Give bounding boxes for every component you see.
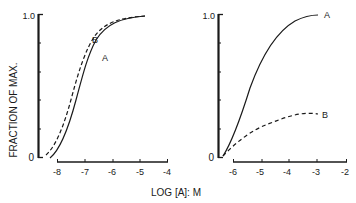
svg-text:-6: -6	[229, 167, 237, 177]
right-panel: 1.0 0 -6 -5 -4 -3 -2 A B	[202, 10, 349, 177]
right-curve-a	[223, 15, 318, 156]
svg-text:-3: -3	[312, 167, 320, 177]
right-curve-b	[223, 113, 318, 156]
left-curve-b-label: B	[92, 35, 98, 45]
x-axis-label: LOG [A]: M	[151, 187, 201, 198]
svg-text:-4: -4	[163, 167, 171, 177]
svg-text:-5: -5	[256, 167, 264, 177]
svg-text:-6: -6	[108, 167, 116, 177]
right-y-top-label: 1.0	[202, 11, 215, 21]
left-y-top-label: 1.0	[22, 11, 35, 21]
y-axis-label: FRACTION OF MAX.	[8, 63, 19, 158]
svg-text:-8: -8	[53, 167, 61, 177]
right-curve-b-label: B	[322, 110, 328, 120]
svg-text:-2: -2	[341, 167, 349, 177]
right-curve-a-label: A	[324, 10, 330, 20]
left-panel: 1.0 0 -8 -7 -6 -5 -4 B A	[22, 11, 171, 177]
left-y-zero-label: 0	[28, 152, 34, 163]
svg-text:-7: -7	[81, 167, 89, 177]
svg-text:-5: -5	[136, 167, 144, 177]
dose-response-figure: FRACTION OF MAX. 1.0 0 -8 -7 -6 -5 -4 B …	[0, 0, 356, 203]
right-y-zero-label: 0	[208, 152, 214, 163]
svg-text:-4: -4	[283, 167, 291, 177]
left-curve-a-label: A	[102, 53, 108, 63]
